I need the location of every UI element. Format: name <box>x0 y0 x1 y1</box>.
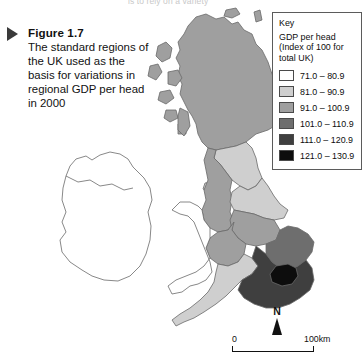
legend-label: 121.0 – 130.9 <box>300 151 354 162</box>
map-scale-bar: 0 100km <box>232 334 352 352</box>
legend-row: 121.0 – 130.9 <box>279 148 357 163</box>
scale-bar-labels: 0 100km <box>232 334 352 345</box>
legend-row: 101.0 – 110.9 <box>279 116 357 131</box>
scale-bar-end-label: 100km <box>304 334 330 344</box>
legend-swatch <box>279 70 294 81</box>
legend-subtitle-line-3: total UK) <box>279 53 357 64</box>
legend-row: 91.0 – 100.9 <box>279 100 357 115</box>
map-region-ireland <box>60 152 152 281</box>
legend-label: 81.0 – 90.9 <box>300 87 344 98</box>
legend-swatch <box>279 86 294 97</box>
north-arrow-label: N <box>266 306 288 317</box>
legend-entries: 71.0 – 80.9 81.0 – 90.9 91.0 – 100.9 101… <box>279 68 357 163</box>
legend-label: 71.0 – 80.9 <box>300 71 344 82</box>
north-arrow-icon: N <box>266 306 288 335</box>
legend-row: 111.0 – 120.9 <box>279 132 357 147</box>
legend-swatch <box>279 118 294 129</box>
scale-bar-rule <box>232 346 314 352</box>
legend-swatch <box>279 150 294 161</box>
legend-label: 111.0 – 120.9 <box>300 135 353 146</box>
legend-swatch <box>279 102 294 113</box>
map-legend: Key GDP per head (Index of 100 for total… <box>272 12 362 170</box>
north-arrow-triangle <box>272 318 282 335</box>
map-island-hebrides-2 <box>148 64 162 80</box>
map-island-kintyre <box>178 108 190 136</box>
map-island-mull <box>158 90 174 104</box>
legend-row: 71.0 – 80.9 <box>279 68 357 83</box>
scale-bar-start-label: 0 <box>232 334 237 344</box>
legend-label: 101.0 – 110.9 <box>300 119 354 130</box>
map-island-islay <box>164 110 178 122</box>
figure-page: is to rely on a variety Figure 1.7 The s… <box>0 0 364 360</box>
map-island-orkney <box>224 8 240 18</box>
legend-row: 81.0 – 90.9 <box>279 84 357 99</box>
legend-swatch <box>279 134 294 145</box>
legend-subtitle-line-1: GDP per head <box>279 32 357 43</box>
legend-subtitle-line-2: (Index of 100 for <box>279 42 357 53</box>
map-region-outer-hebrides <box>156 42 172 62</box>
legend-label: 91.0 – 100.9 <box>300 103 349 114</box>
legend-subtitle: GDP per head (Index of 100 for total UK) <box>279 32 357 64</box>
legend-title: Key <box>279 18 357 29</box>
map-island-shetland <box>254 10 262 22</box>
